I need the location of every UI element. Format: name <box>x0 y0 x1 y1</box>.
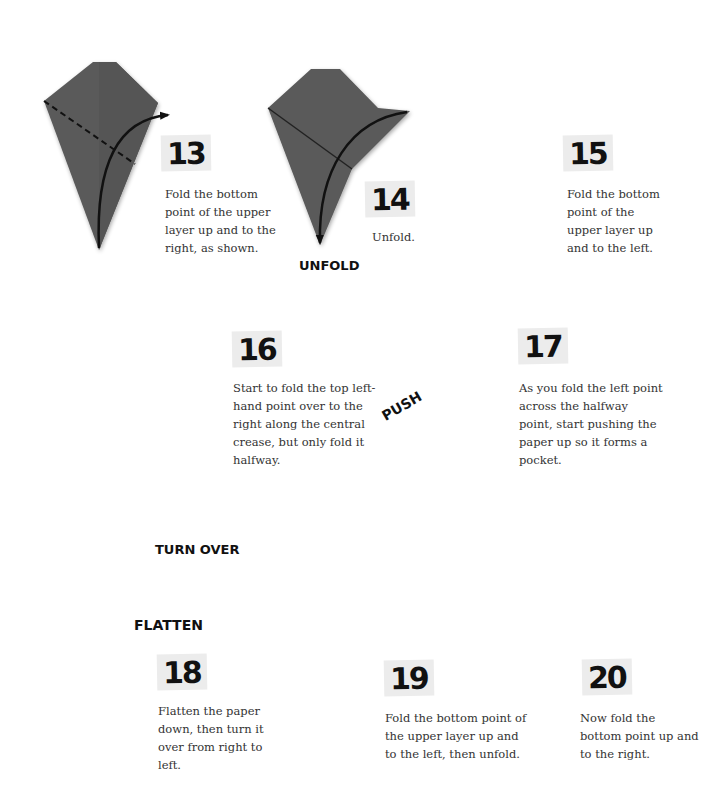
step-14-number: 14 <box>365 181 415 218</box>
unfold-label: UNFOLD <box>299 258 359 273</box>
step-13-text: Fold the bottom point of the upper layer… <box>165 185 285 257</box>
step-14-diagram <box>268 69 410 245</box>
step-16-text: Start to fold the top left-hand point ov… <box>233 379 378 469</box>
step-14-text: Unfold. <box>372 228 432 246</box>
step-18-number: 18 <box>157 654 207 691</box>
origami-instructions: 13 Fold the bottom point of the upper la… <box>0 0 714 809</box>
step-17-text: As you fold the left point across the ha… <box>519 379 664 469</box>
step-16-number: 16 <box>232 331 282 368</box>
step-13-number: 13 <box>161 135 211 172</box>
step-17-number: 17 <box>518 328 568 365</box>
flatten-label: FLATTEN <box>134 617 203 633</box>
step-19-number: 19 <box>384 660 434 697</box>
step-18-text: Flatten the paper down, then turn it ove… <box>158 702 278 774</box>
step-20-text: Now fold the bottom point up and to the … <box>580 709 700 763</box>
step-15-text: Fold the bottom point of the upper layer… <box>567 185 672 257</box>
step-13-diagram <box>44 62 168 250</box>
step-19-text: Fold the bottom point of the upper layer… <box>385 709 530 763</box>
turn-over-label: TURN OVER <box>155 542 240 557</box>
step-15-number: 15 <box>563 135 613 172</box>
step-20-number: 20 <box>582 659 632 696</box>
